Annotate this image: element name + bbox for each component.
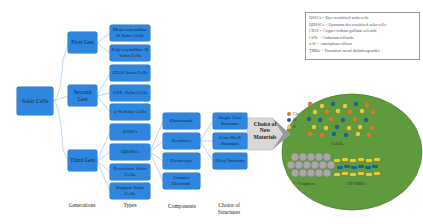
atom-legend-in: In [293,117,297,122]
label-graphene: Graphene [298,181,316,186]
legend-line: DSSCs = Dye-sensitized solar cells [309,15,416,22]
node-type-a-si: a-Si Solar Cells [110,104,150,120]
node-type-perovskite: Perovskite Solar Cells [110,164,150,180]
legend-line: TMDs = Transition metal dichalcogenides [309,48,416,55]
node-component-electrolyte: Electrolyte [163,153,200,169]
node-solar-cells: Solar Cells [17,87,53,115]
node-component-counter-electrode: Counter Electrode [163,173,200,189]
legend-line: a-Si = Amorphous silicon [309,41,416,48]
column-label-generations: Generations [62,202,102,209]
label-2d-tmds: 2D TMDs [347,181,365,186]
node-type-cigs: CIGS Solar Cells [110,65,150,81]
node-type-poly-si: Poly-crystalline Si Solar Cells [110,45,150,61]
node-structure-single-core: Single Core Structure [213,113,247,129]
column-label-structures: Choice of Structures [212,202,246,215]
node-component-photoanode: Photoanode [163,113,200,129]
column-label-types: Types [112,202,148,209]
node-second-gen: Second Gen [68,85,97,106]
node-type-qdsscs: QDSSCs [110,144,150,160]
legend-line: QDSSCs = Quantum dot sensitized solar ce… [309,22,416,29]
node-type-dsscs: DSSCs [110,124,150,140]
atom-legend-cu: Cu [293,111,298,116]
arrow-label-new-materials: Choice of New Materials [248,121,282,140]
node-type-organic: Organic Solar Cells [110,183,150,199]
label-cuins2: CuInS₂ [331,141,344,146]
abbreviation-legend: DSSCs = Dye-sensitized solar cells QDSSC… [305,12,420,60]
column-label-components: Components [160,203,204,210]
node-type-mono-si: Mono-crystalline Si Solar Cells [110,25,150,41]
node-component-sensitizer: Sensitizer [163,133,200,149]
legend-line: CIGS = Copper indium gallium selenide [309,28,416,35]
atom-legend-s: S [293,124,296,129]
node-third-gen: Third Gen [68,150,97,171]
node-structure-core-shell: Core/Shell Structure [213,133,247,149]
graphene-lattice [287,153,335,177]
node-type-cdte: CdTe Solar Cells [110,85,150,101]
legend-line: CdTe = Cadmium telluride [309,35,416,42]
node-structure-alloy: Alloy Structure [213,153,247,169]
node-first-gen: First Gen [68,32,97,53]
